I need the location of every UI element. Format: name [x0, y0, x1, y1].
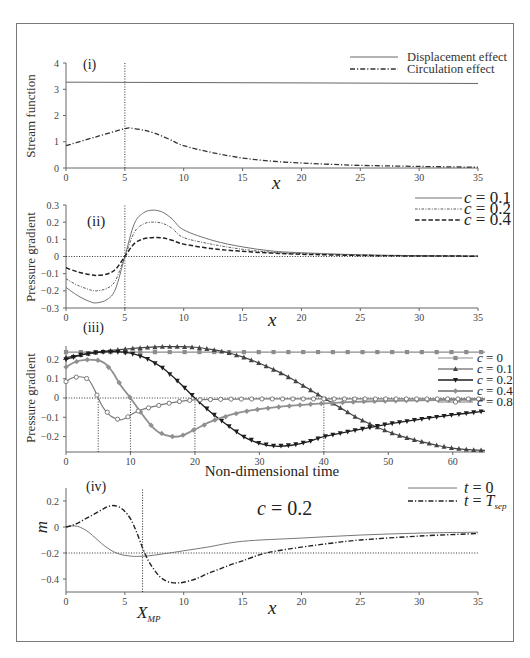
- y-tick-label: −0.2: [41, 285, 59, 296]
- y-axis-label: Pressure gradient: [23, 212, 38, 302]
- data-point-marker: [353, 397, 357, 401]
- y-tick-label: 3: [54, 84, 59, 95]
- data-point-marker: [466, 397, 470, 401]
- data-point-marker: [338, 405, 343, 410]
- x-tick-label: 0: [64, 456, 69, 467]
- data-point-marker: [316, 350, 320, 354]
- plot-area: 0510152025303501234: [54, 58, 483, 184]
- data-point-marker: [170, 434, 175, 439]
- data-point-marker: [308, 402, 313, 407]
- x-tick-label: 15: [238, 172, 248, 183]
- y-axis-label: m: [32, 521, 51, 533]
- data-point-marker: [126, 415, 130, 419]
- data-point-marker: [319, 401, 324, 406]
- panel-label: (i): [83, 57, 97, 73]
- x-tick-label: 10: [179, 172, 189, 183]
- x-mp-label: XMP: [136, 603, 161, 624]
- data-point-marker: [250, 397, 254, 401]
- data-point-marker: [212, 417, 217, 422]
- x-tick-label: 30: [414, 312, 424, 323]
- data-point-marker: [157, 403, 161, 407]
- y-tick-label: 0.1: [47, 234, 60, 245]
- legend: t = 0 t = Tsep: [408, 479, 507, 511]
- x-tick-label: 10: [125, 456, 135, 467]
- data-point-marker: [153, 350, 157, 354]
- data-point-marker: [255, 407, 260, 412]
- panel-i-stream-function: 0510152025303501234 (i) Stream function …: [23, 50, 508, 193]
- data-point-marker: [301, 350, 305, 354]
- y-tick-label: −0.2: [41, 431, 59, 442]
- data-point-marker: [384, 397, 388, 401]
- x-tick-label: 0: [64, 596, 69, 607]
- x-tick-label: 25: [355, 312, 365, 323]
- data-point-marker: [446, 397, 450, 401]
- y-tick-label: 2: [54, 110, 59, 121]
- x-tick-label: 60: [448, 456, 458, 467]
- data-point-marker: [286, 350, 290, 354]
- data-point-marker: [265, 406, 270, 411]
- data-point-marker: [180, 432, 185, 437]
- x-tick-label: 20: [296, 312, 306, 323]
- y-tick-label: 0: [54, 522, 59, 533]
- data-point-marker: [244, 409, 249, 414]
- data-point-marker: [242, 350, 246, 354]
- y-tick-label: 1: [54, 136, 59, 147]
- y-tick-label: 0: [54, 392, 59, 403]
- y-tick-label: 0: [54, 163, 59, 174]
- series-line: [66, 128, 478, 167]
- data-point-marker: [239, 397, 243, 401]
- data-point-marker: [286, 374, 291, 379]
- data-point-marker: [229, 397, 233, 401]
- x-tick-label: 25: [355, 172, 365, 183]
- data-point-marker: [278, 370, 283, 375]
- data-point-marker: [331, 350, 335, 354]
- data-point-marker: [136, 409, 140, 413]
- x-tick-label: 5: [122, 312, 127, 323]
- data-point-marker: [146, 406, 150, 410]
- series-line: [66, 82, 478, 83]
- data-point-marker: [257, 350, 261, 354]
- y-axis-label: Pressure gradient: [23, 353, 38, 443]
- legend-label: c = 0.8: [477, 394, 513, 409]
- data-point-marker: [183, 350, 187, 354]
- data-point-marker: [64, 379, 68, 383]
- data-point-marker: [168, 350, 172, 354]
- data-point-marker: [95, 393, 99, 397]
- x-tick-label: 35: [473, 596, 483, 607]
- data-point-marker: [346, 350, 350, 354]
- x-tick-label: 20: [296, 596, 306, 607]
- x-axis-label: x: [267, 597, 277, 618]
- y-tick-label: −0.2: [41, 548, 59, 559]
- data-point-marker: [332, 397, 336, 401]
- data-point-marker: [322, 397, 326, 401]
- data-point-marker: [453, 388, 458, 393]
- data-point-marker: [167, 401, 171, 405]
- data-point-marker: [291, 397, 295, 401]
- data-point-marker: [311, 397, 315, 401]
- data-point-marker: [115, 417, 119, 421]
- x-tick-label: 15: [238, 596, 248, 607]
- legend-label: t = Tsep: [464, 492, 507, 511]
- data-point-marker: [435, 350, 439, 354]
- y-tick-label: 0: [54, 251, 59, 262]
- x-tick-label: 15: [238, 312, 248, 323]
- data-point-marker: [390, 350, 394, 354]
- y-tick-label: −0.1: [41, 268, 59, 279]
- data-point-marker: [360, 350, 364, 354]
- x-tick-label: 5: [122, 596, 127, 607]
- data-point-marker: [373, 397, 377, 401]
- data-point-marker: [405, 350, 409, 354]
- x-tick-label: 35: [473, 312, 483, 323]
- data-point-marker: [301, 397, 305, 401]
- y-tick-label: 0.2: [47, 217, 60, 228]
- y-axis-label: Stream function: [23, 74, 38, 158]
- legend-item-circulation: Circulation effect: [350, 62, 495, 76]
- data-point-marker: [271, 350, 275, 354]
- data-point-marker: [219, 397, 223, 401]
- c-value-annotation: c = 0.2: [257, 497, 312, 519]
- legend-label: Circulation effect: [407, 62, 495, 76]
- y-tick-label: −0.1: [41, 412, 59, 423]
- plot-area: 05101520253035−0.3−0.2−0.100.10.20.3: [41, 200, 483, 324]
- x-tick-label: 20: [190, 456, 200, 467]
- y-tick-label: 0.2: [47, 354, 60, 365]
